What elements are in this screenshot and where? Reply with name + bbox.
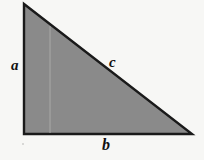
triangle-diagram-canvas: a c b: [0, 0, 204, 160]
triangle-shape: [24, 4, 192, 134]
background-speck: [22, 143, 24, 145]
label-side-c: c: [109, 55, 116, 70]
label-side-b: b: [102, 137, 110, 153]
label-side-a: a: [11, 58, 19, 73]
